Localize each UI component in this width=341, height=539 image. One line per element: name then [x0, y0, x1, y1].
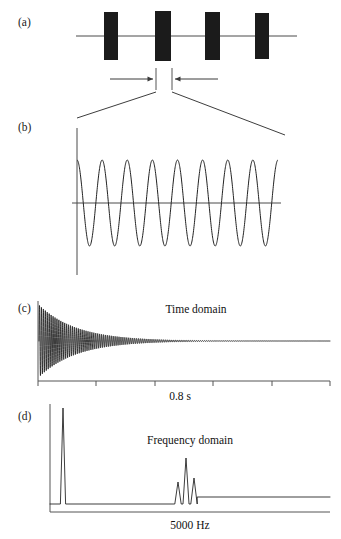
panel-label-c: (c): [18, 302, 31, 315]
expansion-leader-group: [77, 92, 285, 135]
pulse-width-arrow-head-2: [175, 76, 181, 81]
frequency-domain-title: Frequency domain: [147, 434, 233, 447]
pulse-width-arrow-head-1: [148, 76, 154, 81]
spectrum-trace: [50, 408, 330, 504]
scientific-figure-canvas: (a) (b) (c) Time domain 0.8 s: [0, 0, 341, 539]
frequency-domain-x-axis-label: 5000 Hz: [170, 519, 209, 531]
pulse-rect-2: [155, 11, 171, 61]
figure-root: (a) (b) (c) Time domain 0.8 s: [0, 0, 341, 539]
panel-c-group: (c) Time domain 0.8 s: [18, 301, 330, 402]
pulse-width-arrows: [110, 76, 218, 81]
pulse-rect-1: [104, 12, 118, 60]
pulse-width-tick-marks: [156, 68, 172, 90]
pulse-rect-3: [205, 12, 220, 60]
time-domain-x-ticks: [38, 381, 330, 386]
damped-oscillation-trace: [39, 305, 330, 375]
panel-a-group: (a): [18, 11, 297, 90]
zoom-leader-line-right: [172, 92, 285, 135]
panel-label-a: (a): [18, 16, 31, 29]
panel-label-b: (b): [18, 121, 32, 134]
panel-b-group: (b): [18, 121, 281, 275]
panel-label-d: (d): [18, 410, 32, 423]
panel-d-group: (d) Frequency domain 5000 Hz: [18, 404, 330, 531]
time-domain-x-axis-label: 0.8 s: [169, 390, 191, 402]
time-domain-title: Time domain: [165, 303, 226, 315]
zoom-leader-line-left: [77, 92, 156, 118]
pulse-rect-4: [255, 13, 269, 59]
